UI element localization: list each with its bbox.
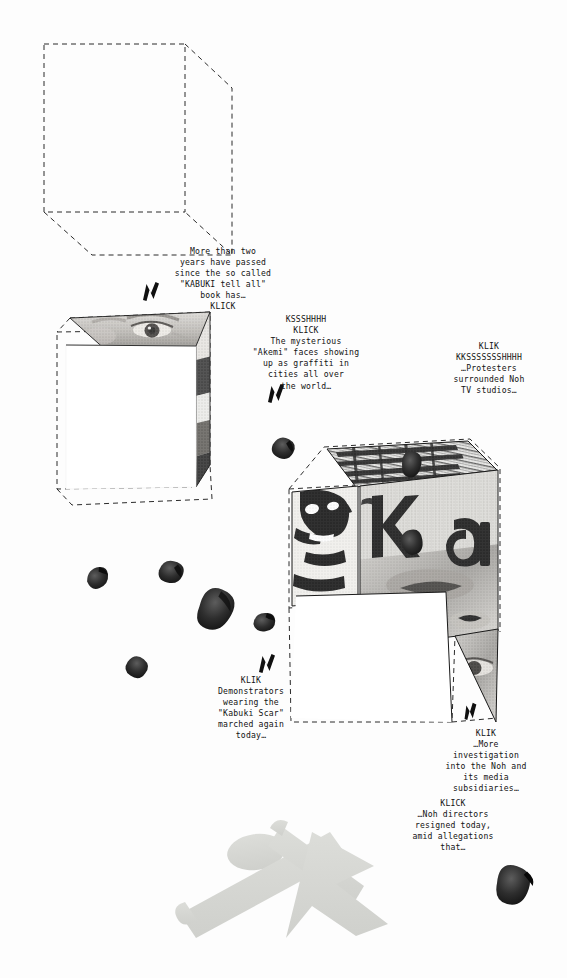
petal-5 bbox=[122, 652, 151, 681]
caption-noh-directors: KLICK …Noh directors resigned today, ami… bbox=[390, 798, 516, 853]
caption-protesters-noh: KLIK KKSSSSSSSHHHH …Protesters surrounde… bbox=[428, 341, 550, 396]
caption-kabuki-book: More than two years have passed since th… bbox=[158, 246, 288, 313]
bolt-icon-4 bbox=[460, 700, 480, 720]
caption-demonstrators: KLIK Demonstrators wearing the "Kabuki S… bbox=[196, 675, 306, 742]
petal-1 bbox=[84, 565, 112, 591]
petal-7 bbox=[400, 450, 423, 478]
petal-3 bbox=[190, 583, 239, 636]
caption-akemi-graffiti: KSSSHHHH KLICK The mysterious "Akemi" fa… bbox=[241, 314, 371, 392]
petal-9 bbox=[491, 862, 537, 910]
artwork-canvas: More than two years have passed since th… bbox=[0, 0, 567, 978]
petal-4 bbox=[252, 612, 276, 633]
petal-8 bbox=[399, 528, 426, 557]
petal-6 bbox=[269, 434, 297, 462]
caption-investigation: KLIK …More investigation into the Noh an… bbox=[425, 728, 547, 795]
petal-2 bbox=[157, 558, 186, 585]
bolt-icon-3 bbox=[256, 652, 278, 674]
